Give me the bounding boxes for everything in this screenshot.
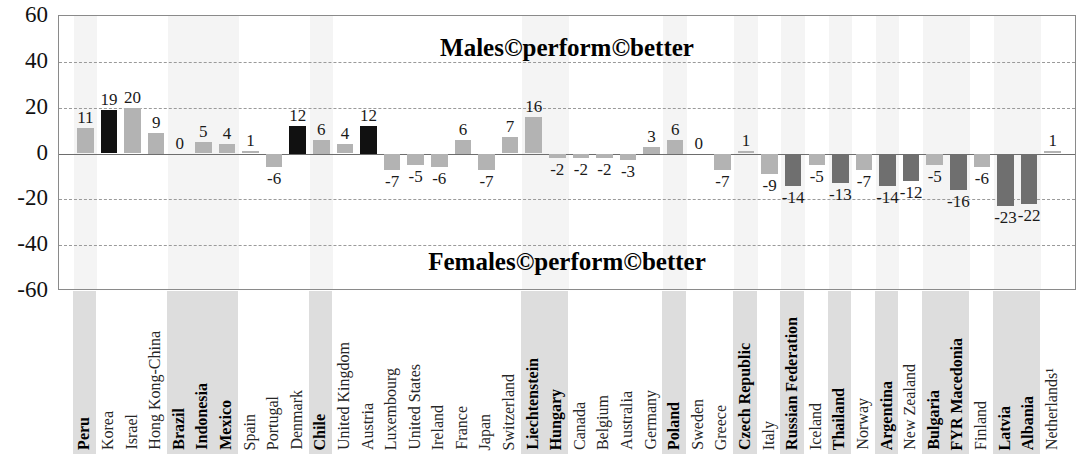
x-label-column-sweden[interactable]: Sweden: [686, 291, 710, 454]
x-label-column-japan[interactable]: Japan: [474, 291, 498, 454]
x-label-column-liechtenstein[interactable]: Liechtenstein: [521, 291, 545, 454]
gridline-20: [59, 108, 1075, 109]
bar-canada[interactable]: [573, 154, 590, 159]
x-label-czech-republic: Czech Republic: [736, 343, 754, 450]
x-label-column-israel[interactable]: Israel: [120, 291, 144, 454]
x-label-column-thailand[interactable]: Thailand: [828, 291, 852, 454]
bar-peru[interactable]: [77, 128, 94, 153]
x-axis-category-labels: PeruKoreaIsraelHong Kong-ChinaBrazilIndo…: [58, 291, 1076, 454]
bar-japan[interactable]: [478, 154, 495, 170]
x-label-hong-kong-china: Hong Kong-China: [146, 331, 164, 450]
x-label-column-belgium[interactable]: Belgium: [592, 291, 616, 454]
x-label-column-new-zealand[interactable]: New Zealand: [898, 291, 922, 454]
value-label-albania: -22: [1010, 207, 1048, 224]
x-label-column-peru[interactable]: Peru: [73, 291, 97, 454]
zero-axis-line: [59, 154, 1075, 155]
y-axis-tick-60: 60: [0, 3, 48, 26]
bar-ireland[interactable]: [431, 154, 448, 168]
bar-united-kingdom[interactable]: [337, 144, 354, 153]
x-label-canada: Canada: [571, 402, 589, 450]
bar-united-states[interactable]: [407, 154, 424, 165]
y-axis-tick-neg20: -20: [0, 186, 48, 209]
x-label-israel: Israel: [123, 414, 141, 450]
x-label-russian-federation: Russian Federation: [783, 317, 801, 450]
x-label-column-russian-federation[interactable]: Russian Federation: [780, 291, 804, 454]
x-label-column-france[interactable]: France: [450, 291, 474, 454]
x-label-column-poland[interactable]: Poland: [662, 291, 686, 454]
x-label-column-latvia[interactable]: Latvia: [993, 291, 1017, 454]
bar-czech-republic[interactable]: [738, 151, 755, 153]
x-label-column-denmark[interactable]: Denmark: [285, 291, 309, 454]
value-label-hong-kong-china: 9: [137, 114, 175, 131]
x-label-hungary: Hungary: [547, 389, 565, 450]
x-label-column-bulgaria[interactable]: Bulgaria: [922, 291, 946, 454]
gridline-neg40: [59, 245, 1075, 246]
y-axis-tick-neg40: -40: [0, 232, 48, 255]
bar-albania[interactable]: [1021, 154, 1038, 204]
x-label-column-united-states[interactable]: United States: [403, 291, 427, 454]
bar-italy[interactable]: [761, 154, 778, 175]
x-label-column-switzerland[interactable]: Switzerland: [497, 291, 521, 454]
x-label-finland: Finland: [972, 401, 990, 450]
x-label-column-korea[interactable]: Korea: [96, 291, 120, 454]
x-label-column-luxembourg[interactable]: Luxembourg: [379, 291, 403, 454]
x-label-column-portugal[interactable]: Portugal: [261, 291, 285, 454]
y-axis-tick-neg60: -60: [0, 278, 48, 301]
x-label-bulgaria: Bulgaria: [925, 390, 943, 450]
x-label-belgium: Belgium: [594, 395, 612, 450]
bar-belgium[interactable]: [596, 154, 613, 159]
x-label-new-zealand: New Zealand: [901, 364, 919, 450]
bar-norway[interactable]: [856, 154, 873, 170]
value-label-united-kingdom: 4: [326, 125, 364, 142]
x-label-column-italy[interactable]: Italy: [757, 291, 781, 454]
x-label-iceland: Iceland: [807, 403, 825, 450]
x-label-column-australia[interactable]: Australia: [615, 291, 639, 454]
bar-bulgaria[interactable]: [926, 154, 943, 165]
x-label-column-norway[interactable]: Norway: [851, 291, 875, 454]
x-label-column-argentina[interactable]: Argentina: [875, 291, 899, 454]
value-label-peru: 11: [67, 109, 105, 126]
x-label-column-fyr-macedonia[interactable]: FYR Macedonia: [946, 291, 970, 454]
x-label-albania: Albania: [1019, 396, 1037, 450]
bar-switzerland[interactable]: [502, 137, 519, 153]
x-label-column-czech-republic[interactable]: Czech Republic: [733, 291, 757, 454]
value-label-australia: -3: [609, 163, 647, 180]
x-label-indonesia: Indonesia: [193, 383, 211, 450]
x-label-argentina: Argentina: [878, 381, 896, 450]
x-label-column-chile[interactable]: Chile: [309, 291, 333, 454]
x-label-column-canada[interactable]: Canada: [568, 291, 592, 454]
x-label-column-netherlands-[interactable]: Netherlands¹: [1040, 291, 1064, 454]
bar-germany[interactable]: [643, 147, 660, 154]
x-label-column-brazil[interactable]: Brazil: [167, 291, 191, 454]
x-label-column-united-kingdom[interactable]: United Kingdom: [332, 291, 356, 454]
x-label-column-hungary[interactable]: Hungary: [544, 291, 568, 454]
bar-france[interactable]: [455, 140, 472, 154]
bar-netherlands-[interactable]: [1044, 151, 1061, 153]
bar-australia[interactable]: [620, 154, 637, 161]
bar-finland[interactable]: [974, 154, 991, 168]
x-label-mexico: Mexico: [217, 400, 235, 450]
x-label-column-austria[interactable]: Austria: [356, 291, 380, 454]
bar-hungary[interactable]: [549, 154, 566, 159]
value-label-norway: -7: [845, 173, 883, 190]
x-label-norway: Norway: [854, 398, 872, 450]
chart-root: 6040200-20-40-60 11192090541-6126412-7-5…: [0, 0, 1086, 454]
x-label-column-indonesia[interactable]: Indonesia: [191, 291, 215, 454]
bar-iceland[interactable]: [809, 154, 826, 165]
x-label-column-greece[interactable]: Greece: [710, 291, 734, 454]
x-label-column-finland[interactable]: Finland: [969, 291, 993, 454]
x-label-column-spain[interactable]: Spain: [238, 291, 262, 454]
x-label-column-germany[interactable]: Germany: [639, 291, 663, 454]
x-label-column-mexico[interactable]: Mexico: [214, 291, 238, 454]
bar-portugal[interactable]: [266, 154, 283, 168]
x-label-united-kingdom: United Kingdom: [335, 342, 353, 450]
bar-greece[interactable]: [714, 154, 731, 170]
bar-spain[interactable]: [242, 151, 259, 153]
value-label-greece: -7: [704, 173, 742, 190]
females-perform-better-annotation: Females©perform©better: [59, 248, 1075, 275]
x-label-column-hong-kong-china[interactable]: Hong Kong-China: [143, 291, 167, 454]
x-label-column-ireland[interactable]: Ireland: [427, 291, 451, 454]
x-label-luxembourg: Luxembourg: [382, 368, 400, 450]
x-label-column-albania[interactable]: Albania: [1016, 291, 1040, 454]
x-label-column-iceland[interactable]: Iceland: [804, 291, 828, 454]
